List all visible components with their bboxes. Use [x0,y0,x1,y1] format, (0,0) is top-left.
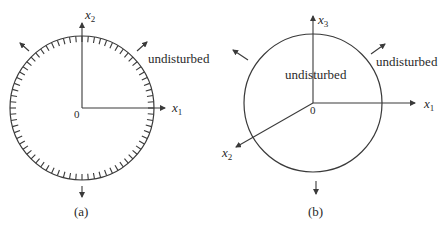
hatch-mark [10,102,16,103]
hatch-mark [46,46,49,51]
origin-label-b: 0 [310,104,316,116]
hatch-mark [120,49,123,54]
hatch-mark [93,37,94,43]
hatch-mark [88,174,89,180]
hatch-mark [146,125,152,127]
hatch-mark [52,168,55,173]
hatch-mark [57,170,59,176]
hatch-mark [46,165,49,170]
x1-label-a: x1 [171,100,182,117]
hatch-mark [76,174,77,180]
hatch-mark [93,173,94,179]
hatch-mark [105,170,107,176]
panel-a: x2 x1 0 undisturbed (a) [10,7,210,219]
hatch-mark [133,150,138,154]
hatch-mark [23,146,28,149]
hatch-mark [105,40,107,46]
hatch-mark [136,146,141,149]
hatch-mark [10,114,16,115]
hatch-mark [41,162,44,167]
hatch-mark [70,37,71,43]
hatch-mark [148,114,154,115]
hatch-mark [23,67,28,70]
hatch-mark [70,173,71,179]
hatch-mark [146,89,152,91]
hatch-mark [115,46,118,51]
hatch-mark [148,102,154,103]
hatch-mark [139,141,144,144]
hatch-mark [27,62,32,66]
hatch-mark [17,136,22,139]
hatch-mark [63,172,65,178]
hatch-mark [142,78,147,81]
origin-label-a: 0 [74,108,80,120]
hatch-mark [12,125,18,127]
hatch-mark [133,62,138,66]
caption-b: (b) [308,204,323,219]
hatch-mark [52,43,55,48]
figure: x2 x1 0 undisturbed (a) x3 x1 x2 0 undis… [0,0,443,226]
x2-label-b: x2 [221,145,232,162]
undisturbed-outer-label-b: undisturbed [376,54,438,69]
hatch-mark [31,57,35,61]
outward-arrow-icon [233,50,248,60]
outward-arrow-icon [20,43,29,51]
hatch-mark [31,155,35,159]
hatch-mark [136,67,141,70]
hatch-mark [144,83,150,85]
hatch-mark [147,96,153,97]
hatch-mark [41,49,44,54]
hatch-mark [110,168,113,173]
hatch-mark [63,38,65,44]
caption-a: (a) [74,204,88,219]
hatch-mark [147,119,153,120]
hatch-mark [120,162,123,167]
hatch-mark [88,36,89,42]
hatch-mark [20,141,25,144]
hatch-mark [36,159,40,164]
hatch-mark [99,172,101,178]
hatch-mark [124,53,128,58]
hatch-mark [11,119,17,120]
x3-label-b: x3 [317,12,329,29]
hatch-mark [144,131,150,133]
x1-label-b: x1 [423,96,434,113]
hatch-mark [124,159,128,164]
hatch-mark [36,53,40,58]
hatch-mark [139,72,144,75]
hatch-mark [76,36,77,42]
hatch-mark [129,57,133,61]
undisturbed-inner-label-b: undisturbed [285,67,347,82]
hatch-mark [57,40,59,46]
panel-b: x3 x1 x2 0 undisturbed undisturbed (b) [221,12,438,219]
hatch-mark [110,43,113,48]
hatch-mark [14,83,20,85]
outward-arrow-icon [137,42,147,51]
undisturbed-label-a: undisturbed [148,51,210,66]
hatch-mark [99,38,101,44]
hatch-mark [12,89,18,91]
hatch-mark [14,131,20,133]
hatch-mark [20,72,25,75]
hatch-mark [27,150,32,154]
hatch-mark [11,96,17,97]
outward-arrow-icon [371,44,385,54]
hatch-mark [17,78,22,81]
hatch-mark [129,155,133,159]
x2-label-a: x2 [84,7,95,24]
hatch-mark [115,165,118,170]
hatch-mark [142,136,147,139]
